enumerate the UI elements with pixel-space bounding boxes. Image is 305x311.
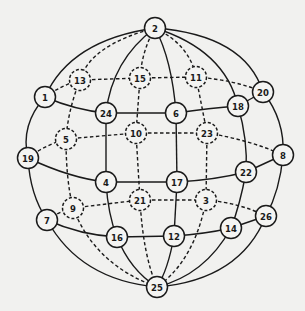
node-5: 5 bbox=[56, 129, 77, 150]
node-4: 4 bbox=[96, 172, 117, 193]
edges-layer bbox=[26, 28, 283, 287]
node-label: 12 bbox=[168, 232, 180, 242]
node-1: 1 bbox=[35, 87, 56, 108]
node-6: 6 bbox=[166, 103, 187, 124]
node-label: 11 bbox=[190, 73, 202, 83]
node-label: 2 bbox=[152, 24, 158, 34]
hidden-edge bbox=[140, 200, 157, 287]
nodes-layer: 2131511201246185102381941722219326716121… bbox=[18, 18, 294, 298]
node-13: 13 bbox=[70, 70, 91, 91]
node-label: 21 bbox=[134, 196, 146, 206]
node-24: 24 bbox=[96, 103, 117, 124]
node-label: 6 bbox=[173, 109, 179, 119]
node-label: 9 bbox=[70, 204, 76, 214]
node-26: 26 bbox=[256, 206, 277, 227]
node-label: 4 bbox=[103, 178, 109, 188]
node-label: 7 bbox=[44, 216, 50, 226]
node-label: 24 bbox=[100, 109, 112, 119]
node-label: 3 bbox=[203, 196, 209, 206]
node-label: 23 bbox=[201, 129, 213, 139]
node-label: 10 bbox=[130, 129, 142, 139]
visible-edge bbox=[155, 28, 176, 113]
node-16: 16 bbox=[107, 227, 128, 248]
node-23: 23 bbox=[197, 123, 218, 144]
node-label: 8 bbox=[280, 151, 286, 161]
node-label: 22 bbox=[240, 168, 252, 178]
node-label: 5 bbox=[63, 135, 69, 145]
node-2: 2 bbox=[145, 18, 166, 39]
node-9: 9 bbox=[63, 198, 84, 219]
node-label: 1 bbox=[42, 93, 48, 103]
node-label: 16 bbox=[111, 233, 123, 243]
node-label: 26 bbox=[260, 212, 272, 222]
node-17: 17 bbox=[167, 172, 188, 193]
node-label: 18 bbox=[232, 102, 244, 112]
node-label: 17 bbox=[171, 178, 183, 188]
node-14: 14 bbox=[221, 218, 242, 239]
node-label: 13 bbox=[74, 76, 86, 86]
node-label: 15 bbox=[134, 74, 146, 84]
node-18: 18 bbox=[228, 96, 249, 117]
node-25: 25 bbox=[147, 277, 168, 298]
node-label: 25 bbox=[151, 283, 163, 293]
node-label: 19 bbox=[22, 154, 34, 164]
sphere-graph-diagram: 2131511201246185102381941722219326716121… bbox=[0, 0, 305, 311]
node-7: 7 bbox=[37, 210, 58, 231]
node-15: 15 bbox=[130, 68, 151, 89]
node-20: 20 bbox=[253, 82, 274, 103]
node-label: 14 bbox=[225, 224, 237, 234]
node-3: 3 bbox=[196, 190, 217, 211]
node-11: 11 bbox=[186, 67, 207, 88]
node-19: 19 bbox=[18, 148, 39, 169]
node-label: 20 bbox=[257, 88, 269, 98]
node-12: 12 bbox=[164, 226, 185, 247]
node-21: 21 bbox=[130, 190, 151, 211]
node-10: 10 bbox=[126, 123, 147, 144]
node-22: 22 bbox=[236, 162, 257, 183]
node-8: 8 bbox=[273, 145, 294, 166]
graph-svg: 2131511201246185102381941722219326716121… bbox=[0, 0, 305, 311]
